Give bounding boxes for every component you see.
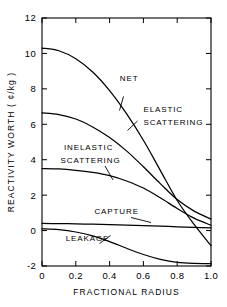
annotation-scattering: SCATTERING (143, 118, 203, 127)
x-tick-label: 0 (39, 270, 45, 281)
curve-elastic-scattering (42, 113, 211, 219)
y-tick-label: 0 (30, 225, 36, 236)
y-tick-label: -2 (27, 260, 36, 271)
x-tick-label: 0.2 (69, 270, 83, 281)
chart-figure: 121086420-2 00.20.40.60.81.0 NETELASTICS… (0, 0, 227, 307)
curve-capture (42, 223, 211, 227)
annotation-inelastic: INELASTIC (64, 143, 113, 152)
x-tick-label: 0.6 (136, 270, 150, 281)
leader-line-capture (131, 218, 151, 223)
y-tick-label: 2 (30, 190, 36, 201)
leader-line-inelastic (105, 166, 113, 180)
reactivity-worth-line-chart: 121086420-2 00.20.40.60.81.0 NETELASTICS… (0, 0, 227, 307)
y-tick-label: 12 (25, 12, 36, 23)
annotation-leakage: LEAKAGE (66, 234, 110, 243)
y-tick-label: 8 (30, 83, 36, 94)
y-axis-title: REACTIVITY WORTH ( ¢/kg ) (6, 72, 16, 213)
annotation-elastic: ELASTIC (143, 105, 183, 114)
annotation-net: NET (120, 74, 139, 83)
curve-inelastic-scattering (42, 169, 211, 226)
y-tick-label: 4 (30, 154, 36, 165)
y-tick-label: 6 (30, 119, 36, 130)
y-tick-label: 10 (25, 48, 36, 59)
x-axis-tick-labels: 00.20.40.60.81.0 (39, 270, 218, 281)
y-axis-tick-labels: 121086420-2 (25, 12, 36, 271)
annotation-capture: CAPTURE (94, 207, 139, 216)
x-axis-title: FRACTIONAL RADIUS (73, 287, 180, 297)
x-tick-label: 0.4 (103, 270, 117, 281)
annotation-scattering: SCATTERING (61, 156, 121, 165)
x-tick-label: 0.8 (170, 270, 184, 281)
x-tick-label: 1.0 (204, 270, 218, 281)
